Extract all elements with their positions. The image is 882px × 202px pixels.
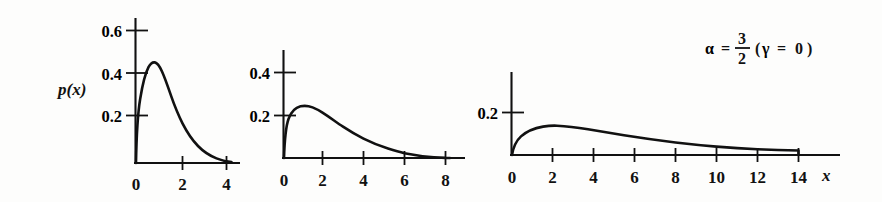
panel-3-xtick-label-4: 4	[589, 168, 598, 187]
probability-density-figure: 0.6 0.4 0.2 0 2 4 0.4 0.	[0, 0, 882, 202]
annotation-gamma-value: 0	[795, 40, 803, 57]
panel-3-xtick-label-12: 12	[749, 168, 766, 187]
panel-2-ytick-label-0.4: 0.4	[249, 64, 270, 83]
panel-2-ytick-label-0.2: 0.2	[249, 107, 270, 126]
annotation-paren-close: )	[807, 40, 812, 58]
panel-3-ytick-label-0.2: 0.2	[477, 104, 498, 123]
panel-1-ytick-label-0.4: 0.4	[101, 65, 122, 84]
panel-2-xtick-label-2: 2	[318, 171, 327, 190]
panel-3-xtick-label-6: 6	[630, 168, 639, 187]
panel-3-density-curve	[512, 126, 799, 155]
annotation-equals-sign: =	[721, 40, 730, 57]
figure-container: 0.6 0.4 0.2 0 2 4 0.4 0.	[0, 0, 882, 202]
panel-2-density-curve	[284, 106, 450, 158]
y-axis-label: p(x)	[56, 80, 86, 99]
panel-3-xtick-label-14: 14	[790, 168, 808, 187]
panel-2-xtick-label-8: 8	[441, 171, 450, 190]
panel-1-ytick-label-0.2: 0.2	[101, 107, 122, 126]
panel-1-xtick-label-0: 0	[132, 175, 141, 194]
annotation-alpha-symbol: α	[705, 40, 714, 57]
panel-1-xtick-label-2: 2	[178, 175, 187, 194]
panel-1-ytick-label-0.6: 0.6	[101, 22, 122, 41]
panel-3: 0.2 0 2 4 6 8 10 12 14	[477, 72, 840, 187]
annotation-fraction-denominator: 2	[738, 50, 746, 67]
annotation-gamma-equals-sign: =	[777, 40, 786, 57]
panel-3-xtick-label-10: 10	[708, 168, 725, 187]
panel-1-xtick-label-4: 4	[222, 175, 231, 194]
x-axis-label: x	[821, 166, 831, 185]
panel-2: 0.4 0.2 0 2 4 6 8	[249, 50, 465, 190]
panel-2-xtick-label-6: 6	[400, 171, 409, 190]
panel-2-xtick-label-4: 4	[359, 171, 368, 190]
parameter-annotation: α = 3 2 ( γ = 0 )	[705, 30, 812, 67]
panel-1: 0.6 0.4 0.2 0 2 4	[101, 18, 240, 194]
annotation-gamma-symbol: γ	[761, 40, 770, 58]
annotation-fraction-numerator: 3	[738, 30, 746, 47]
panel-3-xtick-label-0: 0	[508, 168, 517, 187]
panel-3-xtick-label-8: 8	[671, 168, 680, 187]
panel-3-xtick-label-2: 2	[548, 168, 557, 187]
annotation-paren-open: (	[755, 40, 760, 58]
panel-2-xtick-label-0: 0	[280, 171, 289, 190]
panel-1-density-curve	[136, 62, 232, 163]
